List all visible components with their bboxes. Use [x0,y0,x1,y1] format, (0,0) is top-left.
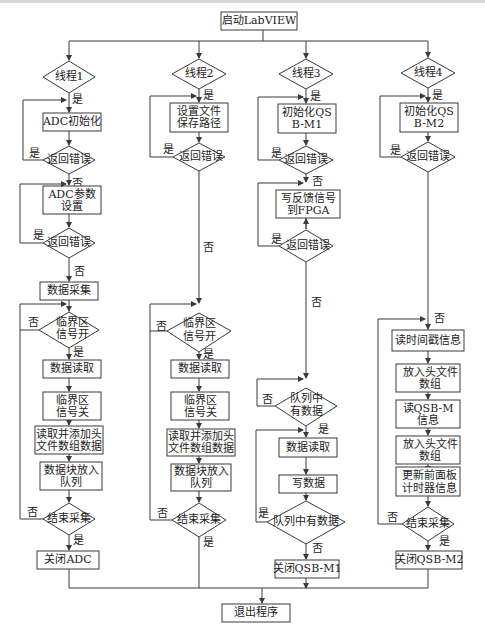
svg-text:信号开: 信号开 [183,330,216,343]
svg-text:否: 否 [262,393,273,406]
svg-text:结束采集: 结束采集 [406,516,450,530]
svg-text:数据采集: 数据采集 [47,283,91,297]
svg-text:临界区: 临界区 [183,316,216,330]
svg-text:ADC初始化: ADC初始化 [42,114,101,128]
svg-text:信号关: 信号关 [56,405,89,419]
svg-text:否: 否 [434,312,445,325]
svg-text:B-M2: B-M2 [414,117,444,130]
svg-text:队列中: 队列中 [290,391,323,405]
svg-text:线程1: 线程1 [55,69,84,83]
svg-text:返回错误: 返回错误 [179,149,223,163]
svg-text:是: 是 [33,229,44,242]
svg-text:否: 否 [74,265,85,278]
svg-text:启动LabVIEW: 启动LabVIEW [222,14,297,27]
svg-text:信号开: 信号开 [56,328,89,341]
svg-text:结束采集: 结束采集 [177,512,221,526]
thread-1: 线程1 是 ADC初始化 返回错误 是 否 ADC参数 设置 返回错误 是 否 … [20,61,103,588]
svg-text:是: 是 [72,93,83,106]
svg-text:否: 否 [387,511,398,524]
svg-text:是: 是 [271,147,282,160]
svg-text:读取并添加头: 读取并添加头 [36,427,102,441]
svg-text:返回错误: 返回错误 [47,152,91,166]
svg-text:线程3: 线程3 [292,66,321,80]
svg-text:关闭QSB-M1: 关闭QSB-M1 [273,561,342,575]
svg-text:数据块放入: 数据块放入 [44,463,99,477]
svg-text:退出程序: 退出程序 [234,605,278,619]
svg-text:读时间戳信息: 读时间戳信息 [395,333,461,347]
svg-text:是: 是 [432,89,443,102]
svg-text:是: 是 [258,507,269,520]
svg-text:否: 否 [28,316,39,329]
svg-text:否: 否 [312,542,323,555]
svg-text:返回错误: 返回错误 [286,238,330,252]
thread-2: 线程2 是 设置文件 保存路径 返回错误 是 否 临界区 信号开 否 是 数据读… [150,59,235,588]
svg-text:信息: 信息 [417,413,439,427]
svg-text:数据读取: 数据读取 [178,361,222,375]
svg-text:是: 是 [390,144,401,157]
svg-text:是: 是 [203,348,214,361]
thread-4: 线程4 是 初始化QS B-M2 返回错误 是 否 读时间戳信息 放入头文件 数… [378,58,464,588]
start-node: 启动LabVIEW [221,12,297,30]
svg-text:放入头文件: 放入头文件 [403,365,458,379]
svg-text:队列: 队列 [60,475,82,489]
svg-text:ADC参数: ADC参数 [47,187,95,201]
svg-text:否: 否 [27,506,38,519]
svg-text:队列: 队列 [190,476,212,490]
svg-text:更新前面板: 更新前面板 [402,468,457,482]
svg-text:返回错误: 返回错误 [47,235,91,249]
svg-text:是: 是 [439,535,450,548]
svg-text:是: 是 [163,143,174,156]
svg-text:是: 是 [73,346,84,359]
svg-text:初始化QS: 初始化QS [404,104,454,118]
svg-text:读取并添加头: 读取并添加头 [168,429,234,443]
svg-text:数据读取: 数据读取 [286,440,330,454]
flowchart: 启动LabVIEW 线程1 是 ADC初始化 返回错误 是 否 ADC参数 设置… [0,0,485,633]
svg-text:保存路径: 保存路径 [177,116,221,130]
svg-text:写数据: 写数据 [292,476,325,490]
thread-3: 线程3 是 初始化QS B-M1 返回错误 是 否 写反馈信号 到FPGA 返回… [256,59,345,588]
svg-text:结束采集: 结束采集 [47,511,91,525]
svg-text:否: 否 [157,507,168,520]
svg-text:是: 是 [310,90,321,103]
svg-text:是: 是 [318,423,329,436]
svg-text:数组: 数组 [419,449,441,463]
svg-text:到FPGA: 到FPGA [287,204,331,217]
svg-text:放入头文件: 放入头文件 [403,437,458,451]
svg-text:读QSB-M: 读QSB-M [403,401,454,415]
svg-text:临界区: 临界区 [184,393,217,407]
svg-text:文件数组数据: 文件数组数据 [36,439,102,453]
svg-text:否: 否 [203,241,214,254]
svg-text:返回错误: 返回错误 [406,149,450,163]
svg-text:是: 是 [29,147,40,160]
svg-text:否: 否 [311,296,322,309]
svg-text:数据读取: 数据读取 [50,361,94,375]
svg-text:数组: 数组 [419,377,441,391]
svg-text:是: 是 [203,536,214,549]
svg-text:文件数组数据: 文件数组数据 [168,441,234,455]
svg-text:数据块放入: 数据块放入 [174,464,229,478]
svg-text:临界区: 临界区 [56,393,89,407]
svg-text:线程2: 线程2 [185,66,214,80]
svg-text:设置: 设置 [61,200,83,213]
svg-text:初始化QS: 初始化QS [282,105,332,119]
svg-text:线程4: 线程4 [414,65,443,79]
svg-text:设置文件: 设置文件 [177,104,221,118]
svg-text:是: 是 [73,534,84,547]
svg-text:是: 是 [203,89,214,102]
svg-text:临界区: 临界区 [56,315,89,329]
svg-text:队列中有数据: 队列中有数据 [273,514,339,528]
svg-text:是: 是 [271,233,282,246]
svg-text:关闭ADC: 关闭ADC [44,552,91,566]
svg-text:有数据: 有数据 [290,404,323,418]
svg-text:关闭QSB-M2: 关闭QSB-M2 [395,552,464,566]
svg-text:B-M1: B-M1 [292,118,322,131]
svg-text:计时器信息: 计时器信息 [402,481,457,495]
svg-text:返回错误: 返回错误 [284,152,328,166]
svg-text:否: 否 [312,175,323,188]
end-node: 退出程序 [222,604,290,622]
svg-text:信号关: 信号关 [184,405,217,419]
